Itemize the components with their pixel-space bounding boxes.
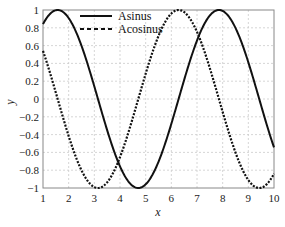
x-axis-label: x bbox=[154, 205, 161, 219]
y-tick-label: 1 bbox=[34, 4, 40, 16]
y-axis-label: y bbox=[3, 99, 17, 106]
x-tick-label: 4 bbox=[117, 192, 123, 204]
y-tick-labels: 10.80.60.40.20−0.2−0.4−0.6−0.8−1 bbox=[19, 4, 39, 194]
y-tick-label: −0.4 bbox=[19, 129, 39, 141]
y-tick-label: 0.6 bbox=[25, 40, 39, 52]
x-tick-label: 5 bbox=[143, 192, 149, 204]
x-tick-label: 9 bbox=[246, 192, 252, 204]
x-tick-label: 10 bbox=[269, 192, 281, 204]
y-tick-label: 0.8 bbox=[25, 22, 39, 34]
y-tick-label: 0.4 bbox=[25, 57, 39, 69]
legend: Asinus Acosinus bbox=[80, 9, 163, 36]
y-tick-label: −0.8 bbox=[19, 164, 39, 176]
x-tick-label: 2 bbox=[66, 192, 72, 204]
y-tick-label: −0.6 bbox=[19, 146, 39, 158]
y-tick-label: −1 bbox=[27, 182, 39, 194]
x-tick-label: 3 bbox=[92, 192, 98, 204]
y-tick-label: −0.2 bbox=[19, 111, 39, 123]
x-tick-label: 7 bbox=[194, 192, 200, 204]
y-tick-label: 0 bbox=[34, 93, 40, 105]
legend-label-asinus: Asinus bbox=[118, 9, 152, 23]
x-tick-labels: 12345678910 bbox=[40, 192, 280, 204]
x-tick-label: 1 bbox=[40, 192, 46, 204]
x-tick-label: 8 bbox=[220, 192, 226, 204]
line-chart: 12345678910 10.80.60.40.20−0.2−0.4−0.6−0… bbox=[0, 0, 285, 227]
y-tick-label: 0.2 bbox=[25, 75, 39, 87]
legend-label-acosinus: Acosinus bbox=[118, 22, 163, 36]
x-tick-label: 6 bbox=[169, 192, 175, 204]
